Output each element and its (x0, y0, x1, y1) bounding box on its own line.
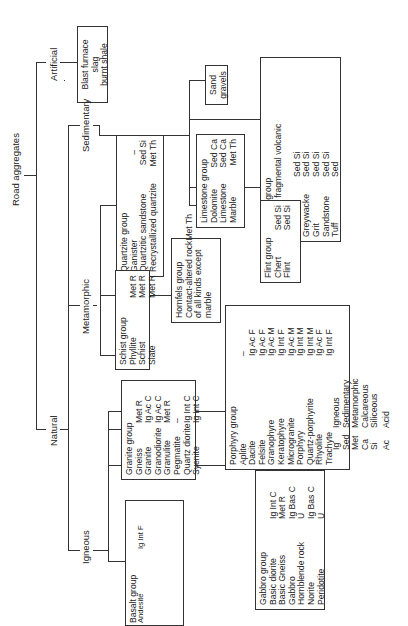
rock-row: GreywackeSed Si (302, 62, 312, 237)
rock-row: SandstoneSed Si (322, 62, 332, 237)
rock-row: Recrystallized quartziteMet Th (149, 140, 159, 272)
connector (100, 205, 116, 206)
connector (64, 80, 65, 81)
limestone-group-box: Limestone group DolomiteSed Ca Limestone… (196, 134, 245, 228)
connector (36, 62, 46, 63)
rock-row: SlateMet R (148, 275, 158, 365)
connector (60, 62, 77, 63)
granite-group-box: Granite group GneissMet R GraniteIg Ac C… (121, 380, 196, 480)
connector (108, 561, 125, 562)
rock-row: SyeniteIg Int C (192, 385, 202, 475)
artificial-line: Blast furnace slag (81, 31, 100, 98)
quartzite-group-box: Quartzite group Ganister– Quartzitic san… (116, 135, 164, 277)
rock-row: TuffSed (331, 62, 341, 237)
sedimentary-label: Sedimentary (80, 99, 91, 152)
legend: IgIgneous SedSedimentary MetMetamorphic … (332, 290, 402, 450)
sand-gravels-box: Sand gravels (205, 65, 228, 105)
legend-composition: AcAcid (382, 411, 392, 450)
connector (100, 206, 101, 356)
connector (68, 125, 69, 551)
basalt-group-box: Basalt group AndesiteIg Int F (125, 500, 184, 626)
connector (93, 550, 108, 551)
artificial-box: Blast furnace slag burnt shale (77, 26, 108, 103)
rock-row: AndesiteIg Int F (139, 505, 143, 623)
connector (100, 355, 115, 356)
flint-group-box: Flint group ChertSed Si FlintSed Si (260, 200, 301, 283)
rock-row: PeridotiteU (317, 475, 327, 605)
schist-group-box: Schist group PhylliteMet R SchistMet R S… (115, 270, 150, 370)
artificial-line: burnt shale (100, 31, 110, 98)
rock-row: FlintSed Si (283, 205, 293, 278)
connector (36, 62, 37, 430)
connector (108, 412, 109, 562)
connector (189, 119, 260, 120)
connector (36, 429, 46, 430)
rock-row: MarbleMet Th (229, 139, 239, 223)
root-label: Road aggregates (10, 133, 21, 206)
connector (108, 429, 121, 430)
connector (68, 125, 80, 126)
connector (68, 305, 80, 306)
connector (24, 175, 36, 176)
connector (189, 205, 196, 206)
gabbro-group-box: Gabbro group Basic dioriteIg Int C Basic… (255, 470, 325, 610)
igneous-label: Igneous (80, 530, 91, 564)
legend-origin: IgIgneous SedSedimentary MetMetamorphic … (332, 378, 380, 450)
metamorphic-label: Metamorphic (80, 279, 91, 334)
road-aggregates-diagram: Road aggregates Artificial Blast furnace… (0, 0, 408, 626)
connector (60, 429, 68, 430)
hornfels-group-box: Hornfels group Contact-altered rockMet T… (171, 238, 221, 323)
hornfels-line: marble (204, 243, 214, 318)
group-title: Porphyry group (229, 310, 239, 465)
sand-line: gravels (219, 70, 229, 100)
legend-entry: AcAcid (382, 411, 392, 450)
natural-label: Natural (48, 415, 59, 446)
connector (189, 80, 205, 81)
artificial-label: Artificial (48, 48, 59, 81)
connector (68, 550, 80, 551)
legend-entry: SiSiliceous (370, 378, 380, 450)
connector (93, 305, 97, 306)
